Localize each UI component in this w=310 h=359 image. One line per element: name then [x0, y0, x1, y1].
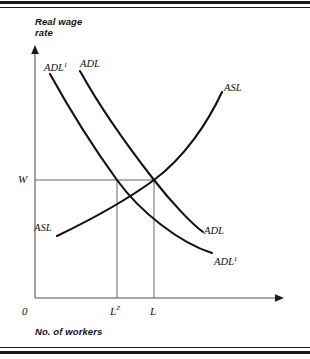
- figure-container: Real wage rate No. of workers 0 W LZ L A…: [0, 0, 310, 359]
- employment-lz-label: LZ: [110, 305, 120, 317]
- curve-label-adl1-right-base: ADL: [214, 256, 234, 267]
- curve-label-asl-left: ASL: [34, 222, 52, 233]
- curve-label-adl1-top-superscript: 1: [64, 61, 68, 69]
- curve-asl: [57, 92, 222, 236]
- curve-adl1: [50, 74, 212, 253]
- bottom-rule-thick: [0, 351, 310, 354]
- y-axis-arrowhead: [31, 45, 39, 54]
- origin-label: 0: [22, 305, 28, 317]
- y-axis-caption: Real wage rate: [35, 16, 82, 38]
- employment-l-label: L: [150, 305, 156, 317]
- curve-label-adl1-right: ADL1: [214, 256, 237, 267]
- curve-label-asl-top: ASL: [224, 82, 242, 93]
- curve-label-adl-right: ADL: [204, 225, 224, 236]
- curve-label-adl1-top: ADL1: [44, 62, 67, 73]
- curve-label-adl-top: ADL: [80, 58, 100, 69]
- x-axis-arrowhead: [275, 294, 284, 302]
- curve-label-adl1-right-superscript: 1: [234, 255, 238, 263]
- wage-level-label: W: [18, 173, 27, 185]
- x-axis-caption: No. of workers: [35, 326, 102, 337]
- curve-label-adl1-top-base: ADL: [44, 62, 64, 73]
- bottom-rule-thin: [0, 347, 310, 348]
- employment-lz-label-superscript: Z: [116, 304, 120, 312]
